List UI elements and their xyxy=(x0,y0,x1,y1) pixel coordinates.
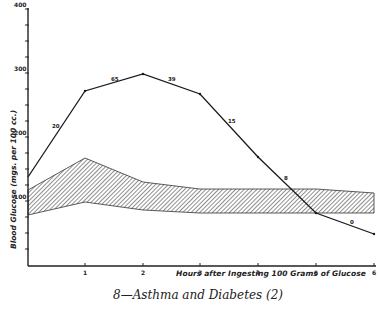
normal-range-band xyxy=(28,158,374,215)
y-axis-label: Blood Glucose (mgs. per 100 cc.) xyxy=(9,105,18,255)
x-tick-1: 1 xyxy=(83,269,87,276)
segment-label-2-3: 39 xyxy=(168,76,176,82)
y-tick-300: 300 xyxy=(14,65,27,72)
figure-caption: 8—Asthma and Diabetes (2) xyxy=(113,288,283,302)
x-tick-2: 2 xyxy=(141,269,145,276)
glucose-chart: 400 300 200 100 1 2 3 4 5 6 20 65 39 15 … xyxy=(0,0,380,312)
x-axis-label: Hours after Ingesting 100 Grams of Gluco… xyxy=(176,269,366,278)
segment-label-0-1: 20 xyxy=(52,123,60,129)
segment-label-3-4: 15 xyxy=(228,118,236,124)
y-tick-400: 400 xyxy=(14,1,27,8)
x-tick-6: 6 xyxy=(372,269,376,276)
segment-label-5-6: 0 xyxy=(350,219,354,225)
segment-label-4-5: 8 xyxy=(284,175,288,181)
segment-label-1-2: 65 xyxy=(111,76,119,82)
